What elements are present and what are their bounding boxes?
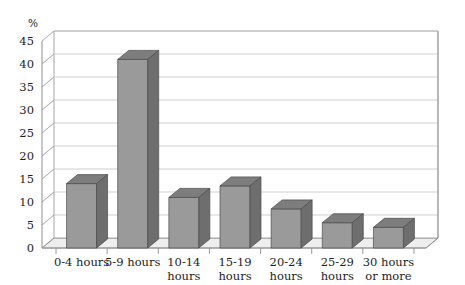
x-axis-labels: 0-4 hours5-9 hours10-14hours15-19hours20… xyxy=(54,248,414,283)
bar-front-face xyxy=(118,59,148,248)
y-axis-tick-label: 15 xyxy=(19,172,34,186)
x-axis-category-label: 15-19 xyxy=(218,255,251,269)
chart-canvas: 051015202530354045%0-4 hours5-9 hours10-… xyxy=(0,0,465,285)
y-axis-tick-label: 5 xyxy=(27,218,34,232)
y-axis-unit-label: % xyxy=(28,17,38,29)
bar-side-face xyxy=(199,188,210,248)
y-axis-tick-label: 35 xyxy=(19,80,34,94)
y-axis-tick-label: 0 xyxy=(27,241,34,255)
bar-side-face xyxy=(97,175,108,248)
axis-depth-tick xyxy=(42,31,54,41)
bar xyxy=(118,50,159,248)
bar xyxy=(220,177,261,248)
y-axis-tick-label: 40 xyxy=(19,57,34,71)
x-axis-category-label: hours xyxy=(167,269,200,283)
y-axis-tick-label: 20 xyxy=(19,149,34,163)
axis-depth-tick xyxy=(42,192,54,202)
bar xyxy=(169,188,210,248)
bar xyxy=(373,218,414,248)
axis-depth-tick xyxy=(42,215,54,225)
bar-front-face xyxy=(373,227,403,248)
x-axis-category-label: hours xyxy=(270,269,303,283)
bar-side-face xyxy=(148,50,159,248)
x-axis-category-label: 10-14 xyxy=(167,255,200,269)
y-axis-tick-label: 25 xyxy=(19,126,34,140)
bar-front-face xyxy=(220,186,250,248)
axis-depth-tick xyxy=(42,146,54,156)
x-axis-category-label: 5-9 hours xyxy=(105,255,160,269)
y-axis-tick-label: 30 xyxy=(19,103,34,117)
x-axis-category-label: 25-29 xyxy=(321,255,354,269)
x-axis-category-label: or more xyxy=(365,269,411,283)
axis-depth-tick xyxy=(42,77,54,87)
bar xyxy=(271,200,312,248)
x-axis-category-label: hours xyxy=(321,269,354,283)
bar xyxy=(322,214,363,248)
x-axis-category-label: 20-24 xyxy=(270,255,303,269)
bar-front-face xyxy=(169,197,199,248)
x-axis-category-label: hours xyxy=(218,269,251,283)
axis-depth-tick xyxy=(42,54,54,64)
bar-front-face xyxy=(322,223,352,248)
bar-chart: 051015202530354045%0-4 hours5-9 hours10-… xyxy=(0,0,465,285)
x-axis-category-label: 30 hours xyxy=(363,255,415,269)
y-axis-tick-label: 10 xyxy=(19,195,34,209)
axis-depth-tick xyxy=(42,100,54,110)
bar xyxy=(67,175,108,248)
x-axis-category-label: 0-4 hours xyxy=(54,255,109,269)
y-axis-tick-label: 45 xyxy=(19,34,34,48)
bar-front-face xyxy=(67,184,97,248)
axis-depth-tick xyxy=(42,123,54,133)
bar-front-face xyxy=(271,209,301,248)
bar-side-face xyxy=(250,177,261,248)
axis-depth-tick xyxy=(42,169,54,179)
bar-side-face xyxy=(301,200,312,248)
